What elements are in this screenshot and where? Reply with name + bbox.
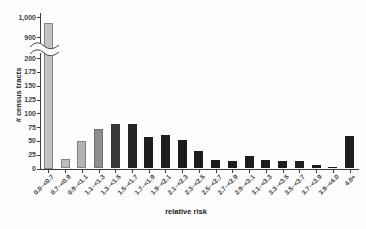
y-tick-label: 100 — [6, 110, 36, 117]
y-tick — [37, 100, 40, 101]
x-tick — [283, 170, 284, 173]
y-tick — [37, 155, 40, 156]
y-axis-line — [40, 53, 41, 170]
y-tick-label: 0 — [6, 165, 36, 172]
bar — [211, 160, 220, 169]
x-tick — [333, 170, 334, 173]
x-tick — [65, 170, 66, 173]
y-axis-line — [40, 13, 41, 45]
x-tick — [216, 170, 217, 173]
y-tick — [37, 17, 40, 18]
bar — [161, 135, 170, 169]
bar — [345, 136, 354, 168]
y-tick-label: 75 — [6, 124, 36, 131]
x-tick — [350, 170, 351, 173]
x-tick — [99, 170, 100, 173]
bar — [295, 161, 304, 168]
y-tick — [37, 141, 40, 142]
bar-chart: # census tracts relative risk 0255075100… — [0, 0, 366, 229]
bar — [144, 137, 153, 168]
bar — [178, 140, 187, 169]
bar — [228, 161, 237, 168]
y-tick — [37, 72, 40, 73]
y-tick-label: 900 — [6, 34, 36, 41]
y-tick — [37, 113, 40, 114]
y-tick — [37, 169, 40, 170]
y-tick-label: 50 — [6, 137, 36, 144]
y-tick — [37, 58, 40, 59]
bar — [128, 124, 137, 169]
y-tick — [37, 86, 40, 87]
bar — [261, 160, 270, 168]
x-tick — [199, 170, 200, 173]
x-tick — [266, 170, 267, 173]
y-tick-label: 150 — [6, 82, 36, 89]
x-tick — [316, 170, 317, 173]
bar — [111, 124, 120, 169]
bar — [194, 151, 203, 168]
y-tick — [37, 127, 40, 128]
bar — [278, 161, 287, 168]
x-tick — [82, 170, 83, 173]
bar — [245, 156, 254, 168]
bar — [328, 167, 337, 168]
y-tick-label: 175 — [6, 68, 36, 75]
y-tick-label: 1,000 — [6, 14, 36, 21]
bar — [77, 141, 86, 169]
bar — [61, 159, 70, 168]
bar — [312, 165, 321, 168]
y-tick-label: 25 — [6, 151, 36, 158]
y-tick-label: 200 — [6, 55, 36, 62]
y-tick-label: 125 — [6, 96, 36, 103]
bar — [94, 129, 103, 168]
x-tick — [132, 170, 133, 173]
x-tick — [149, 170, 150, 173]
y-tick — [37, 37, 40, 38]
bar — [44, 23, 53, 169]
